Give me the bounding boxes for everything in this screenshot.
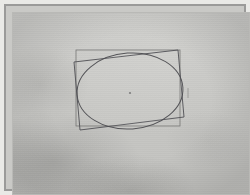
center-point-marker [129, 92, 131, 94]
scan-canvas [0, 0, 250, 195]
inscribed-ellipse [74, 49, 185, 132]
plate-frame-border [4, 4, 246, 191]
paper-field [12, 12, 250, 195]
drawing-layer [12, 12, 250, 195]
